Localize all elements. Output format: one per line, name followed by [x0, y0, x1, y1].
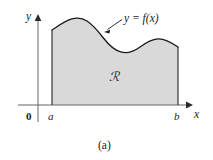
- curve-label-leader-line: [108, 20, 123, 30]
- origin-label: 0: [26, 110, 32, 122]
- shaded-region: [52, 18, 178, 105]
- y-axis-arrowhead: [35, 14, 42, 21]
- figure-diagram: y x 0 a b y = f(x) ℛ (a): [0, 0, 213, 160]
- figure-caption: (a): [98, 139, 111, 152]
- figure-container: y x 0 a b y = f(x) ℛ (a): [0, 0, 213, 160]
- x-axis-arrowhead: [186, 101, 193, 108]
- curve-label-leader-arrowhead: [104, 30, 110, 34]
- y-axis-label: y: [25, 10, 32, 23]
- left-bound-label: a: [48, 110, 54, 122]
- curve-label: y = f(x): [123, 12, 159, 25]
- right-bound-label: b: [174, 110, 180, 122]
- x-axis-label: x: [193, 108, 200, 120]
